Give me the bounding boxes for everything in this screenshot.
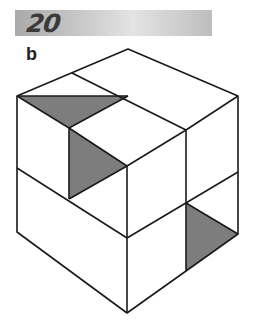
isometric-cube-diagram xyxy=(0,0,253,329)
shaded-triangle-top xyxy=(17,96,128,128)
shaded-triangle-right xyxy=(186,203,238,271)
shaded-triangle-left xyxy=(69,128,127,199)
